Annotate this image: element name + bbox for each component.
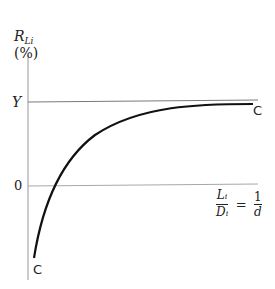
x-axis-label: Li Di = 1 d	[216, 189, 262, 220]
curve-c	[34, 104, 253, 258]
curve-start-label: C	[33, 262, 42, 277]
y-axis-label: RLi	[14, 28, 33, 44]
y-tick-label-zero: 0	[14, 178, 22, 193]
y-tick-label-y: Y	[12, 94, 21, 110]
y-reference-line	[28, 100, 258, 102]
y-axis-unit: (%)	[14, 45, 38, 61]
x-axis-zero-line	[28, 184, 258, 186]
diagram-canvas	[0, 0, 275, 289]
curve-end-label: C	[253, 103, 262, 118]
